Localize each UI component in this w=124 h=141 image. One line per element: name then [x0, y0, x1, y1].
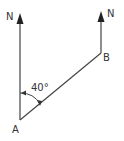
angle-label: 40° [31, 82, 49, 93]
north-label-right: N [107, 8, 114, 19]
north-arrow-right [98, 11, 105, 53]
north-label-left: N [6, 11, 13, 22]
arrowhead-up-icon [17, 13, 24, 24]
arc-arrowhead-icon [21, 91, 26, 96]
bearing-diagram: N N 40° A B [0, 0, 124, 141]
north-arrow-left [17, 13, 24, 120]
point-a-label: A [12, 124, 19, 135]
arrowhead-up-icon [98, 11, 105, 22]
point-b-label: B [103, 52, 110, 63]
